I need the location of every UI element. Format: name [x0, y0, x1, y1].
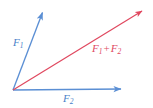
vector-label-sum-second-subscript: 2 [117, 47, 121, 56]
vector-label-sum-first-subscript: 1 [99, 47, 103, 56]
vector-label-f2: F2 [63, 93, 73, 104]
vector-label-f1-symbol: F [13, 36, 20, 48]
vector-label-f1: F1 [13, 37, 23, 48]
vector-label-sum-operator: + [102, 42, 110, 54]
vector-label-f2-subscript: 2 [70, 97, 74, 106]
vector-label-sum-first-symbol: F [92, 42, 99, 54]
vector-f2-line [13, 89, 121, 90]
vector-label-sum: F1+F2 [92, 43, 121, 54]
vector-addition-figure: F1 F2 F1+F2 [0, 0, 153, 108]
vector-sum-line [13, 11, 142, 90]
vector-diagram-canvas [0, 0, 153, 108]
vector-label-f2-symbol: F [63, 92, 70, 104]
vector-f1-line [13, 13, 43, 91]
vector-label-f1-subscript: 1 [20, 41, 24, 50]
